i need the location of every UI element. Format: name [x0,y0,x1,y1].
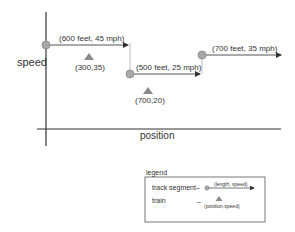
train-label-1: (300,35) [75,63,105,72]
legend-train-example: (position,speed) [204,203,240,209]
y-axis-label: speed [17,56,47,68]
legend-title: legend [146,169,167,177]
segment-label-3: (700 feet, 35 mph) [212,44,278,53]
x-axis-label: position [140,130,174,141]
segment-label-1: (600 feet, 45 mph) [59,34,125,43]
legend-train-dash: – [197,198,201,205]
train-label-2: (700,20) [135,96,165,105]
segment-start-node-2 [126,70,134,78]
train-icon-1 [84,53,94,60]
legend-track-dash: – [196,184,200,191]
legend-segment-node [205,186,209,190]
legend-track-segment-label: track segment [152,184,196,192]
train-icon-2 [143,87,153,94]
segment-label-2: (500 feet, 25 mph) [136,63,202,72]
segment-start-node-1 [42,41,50,49]
legend-train-label: train [152,197,166,204]
segment-start-node-3 [198,51,206,59]
legend-segment-example: (length, speed) [214,181,248,187]
legend-train-icon [216,196,223,201]
track-diagram: speed position (600 feet, 45 mph) (500 f… [0,0,295,232]
